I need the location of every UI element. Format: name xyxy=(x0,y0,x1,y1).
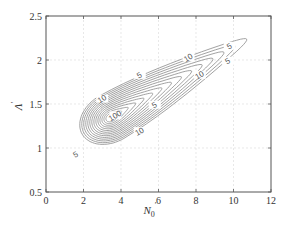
x-tick-label: 4 xyxy=(119,195,124,206)
y-tick-label: 0.5 xyxy=(30,187,43,198)
x-axis-label: N0′ xyxy=(142,201,156,219)
x-tick-label: 6 xyxy=(156,195,161,206)
y-tick-label: 1.5 xyxy=(30,99,43,110)
contour-chart: 5101001055101055 024681012 0.511.522.5 N… xyxy=(0,0,290,228)
y-tick-label: 2 xyxy=(37,55,42,66)
x-tick-label: 2 xyxy=(81,195,86,206)
y-tick-label: 2.5 xyxy=(30,11,43,22)
y-tick-label: 1 xyxy=(37,143,42,154)
x-tick-label: 8 xyxy=(194,195,199,206)
y-axis-label: Λ′ xyxy=(10,102,24,112)
x-tick-label: 0 xyxy=(44,195,49,206)
contour-lines xyxy=(80,39,247,145)
x-tick-label: 12 xyxy=(266,195,276,206)
x-tick-label: 10 xyxy=(229,195,239,206)
contour-labels: 5101001055101055 xyxy=(70,41,236,160)
x-axis-ticks: 024681012 xyxy=(44,16,277,206)
